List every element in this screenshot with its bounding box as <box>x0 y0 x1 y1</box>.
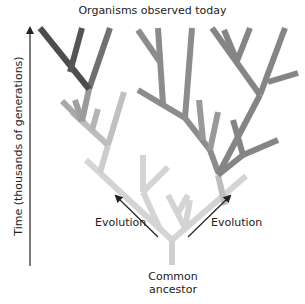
right-clade <box>212 28 298 205</box>
phylogenetic-tree <box>0 0 305 304</box>
left-clade <box>40 28 124 173</box>
evolution-arrow-right <box>188 196 230 237</box>
middle-clade <box>138 28 218 172</box>
